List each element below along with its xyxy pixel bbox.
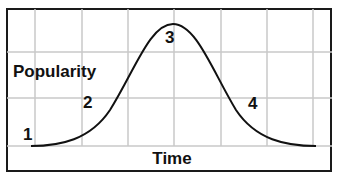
- x-axis-label: Time: [0, 149, 344, 169]
- stage-4-label: 4: [248, 94, 257, 114]
- stage-1-label: 1: [23, 125, 32, 145]
- stage-2-label: 2: [83, 93, 92, 113]
- stage-3-label: 3: [165, 28, 174, 48]
- y-axis-label: Popularity: [13, 62, 96, 82]
